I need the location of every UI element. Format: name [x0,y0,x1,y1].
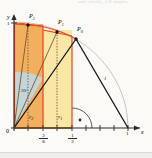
figure-canvas: unit circle, 1/8 angles [0,0,152,158]
point-label-p1: P1 [58,19,64,27]
x-tick-label-1-2: 1 2 [68,133,77,145]
point-marker-p1 [55,30,58,33]
x-tick-label-2-8: 2 8 [39,133,48,145]
x-axis-label: x [141,129,144,135]
y-axis-label: y [7,14,10,20]
radius-length-label: 1 [104,76,107,81]
angle-label-30deg: 30° [21,88,28,93]
y-axis-arrow-icon [11,14,16,20]
page-bottom-rule [0,152,152,158]
x-tick-label-1: 1 [126,131,129,136]
chord-p0-to-x1 [76,39,128,128]
right-angle-arc [72,108,92,128]
origin-label: 0 [6,128,9,134]
ordinate-label-y1: y1 [58,114,62,121]
ordinate-label-y2: y2 [29,114,33,121]
y-axis-top-label: 1 [7,21,10,26]
point-marker-p2 [26,23,29,26]
right-angle-dot-icon [79,119,82,122]
point-label-p0: P0 [77,26,83,34]
x-axis-arrow-icon [134,125,140,130]
point-marker-p0 [74,37,77,40]
point-label-p2: P2 [29,13,35,21]
